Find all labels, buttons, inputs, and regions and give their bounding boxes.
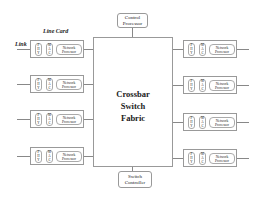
link-label: Link xyxy=(15,41,27,47)
card-to-crossbar-line xyxy=(84,84,93,85)
line-card: PHY MAC NetworkProcessor xyxy=(30,147,84,165)
card-to-crossbar-line xyxy=(84,156,93,157)
switch-controller-line-2: Controller xyxy=(125,180,146,186)
line-card: PHY MAC NetworkProcessor xyxy=(183,113,237,131)
crossbar-label: Crossbar Switch Fabric xyxy=(94,88,172,124)
link-line xyxy=(237,49,249,50)
phy-block: PHY xyxy=(188,116,195,129)
line-card: PHY MAC NetworkProcessor xyxy=(183,76,237,94)
mac-block: MAC xyxy=(46,78,53,91)
mac-block: MAC xyxy=(46,150,53,163)
link-line xyxy=(237,158,249,159)
card-to-crossbar-line xyxy=(173,85,183,86)
crossbar-switch-fabric: Crossbar Switch Fabric xyxy=(93,37,173,167)
line-card: PHY MAC NetworkProcessor xyxy=(183,149,237,167)
crossbar-line-1: Crossbar xyxy=(94,88,172,100)
crossbar-line-2: Switch xyxy=(94,100,172,112)
line-card-label: Line Card xyxy=(43,28,68,34)
crossbar-line-3: Fabric xyxy=(94,112,172,124)
network-processor: NetworkProcessor xyxy=(209,153,235,164)
switch-controller: Switch Controller xyxy=(118,171,152,188)
link-line xyxy=(17,119,30,120)
network-processor: NetworkProcessor xyxy=(56,79,82,90)
mac-block: MAC xyxy=(199,152,206,165)
mac-block: MAC xyxy=(46,43,53,56)
phy-block: PHY xyxy=(35,43,42,56)
card-to-crossbar-line xyxy=(84,49,93,50)
control-processor: Control Processor xyxy=(117,13,148,28)
control-processor-line-2: Processor xyxy=(123,21,142,27)
line-card: PHY MAC NetworkProcessor xyxy=(30,40,84,58)
phy-block: PHY xyxy=(188,43,195,56)
network-processor: NetworkProcessor xyxy=(209,80,235,91)
card-to-crossbar-line xyxy=(84,119,93,120)
mac-block: MAC xyxy=(199,43,206,56)
network-processor: NetworkProcessor xyxy=(56,151,82,162)
line-card: PHY MAC NetworkProcessor xyxy=(30,75,84,93)
phy-block: PHY xyxy=(188,152,195,165)
mac-block: MAC xyxy=(199,79,206,92)
network-processor: NetworkProcessor xyxy=(56,44,82,55)
link-line xyxy=(17,156,30,157)
mac-block: MAC xyxy=(199,116,206,129)
network-processor: NetworkProcessor xyxy=(56,114,82,125)
card-to-crossbar-line xyxy=(173,49,183,50)
link-line xyxy=(17,49,30,50)
link-line xyxy=(237,85,249,86)
phy-block: PHY xyxy=(35,150,42,163)
link-line xyxy=(17,84,30,85)
phy-block: PHY xyxy=(35,113,42,126)
control-to-crossbar-line xyxy=(132,28,133,37)
link-line xyxy=(237,122,249,123)
line-card: PHY MAC NetworkProcessor xyxy=(30,110,84,128)
mac-block: MAC xyxy=(46,113,53,126)
phy-block: PHY xyxy=(35,78,42,91)
network-processor: NetworkProcessor xyxy=(209,44,235,55)
phy-block: PHY xyxy=(188,79,195,92)
card-to-crossbar-line xyxy=(173,122,183,123)
line-card: PHY MAC NetworkProcessor xyxy=(183,40,237,58)
card-to-crossbar-line xyxy=(173,158,183,159)
network-processor: NetworkProcessor xyxy=(209,117,235,128)
